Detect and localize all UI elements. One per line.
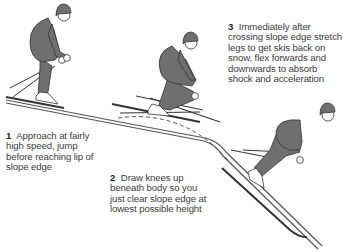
ski-technique-diagram: 1 Approach at fairly high speed, jump be… <box>0 0 344 252</box>
step-3-caption: 3 Immediately after crossing slope edge … <box>228 22 344 84</box>
step-3-text: Immediately after crossing slope edge st… <box>228 21 342 84</box>
skier-landing <box>222 103 335 237</box>
step-1-text: Approach at fairly high speed, jump befo… <box>6 130 93 172</box>
step-2-text: Draw knees up beneath body so you just c… <box>110 172 206 214</box>
skier-approach <box>6 4 71 108</box>
step-2-caption: 2 Draw knees up beneath body so you just… <box>110 173 210 215</box>
step-3-number: 3 <box>228 21 233 32</box>
step-1-number: 1 <box>6 130 11 141</box>
step-1-caption: 1 Approach at fairly high speed, jump be… <box>6 131 106 173</box>
skier-airborne <box>112 32 220 122</box>
trajectory-dashed-line <box>118 117 228 160</box>
step-2-number: 2 <box>110 172 115 183</box>
